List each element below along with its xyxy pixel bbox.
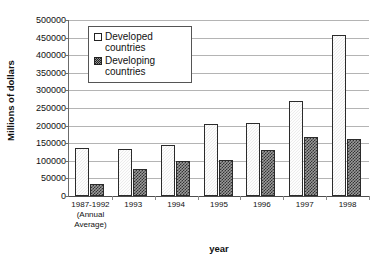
- legend-label-developing: Developing countries: [105, 55, 155, 77]
- x-tick-label: 1995: [198, 200, 241, 210]
- y-tick-mark: [65, 126, 69, 127]
- gridline: [69, 143, 369, 144]
- x-axis-tick-labels: 1987-1992(AnnualAverage)1993199419951996…: [69, 200, 369, 240]
- bar-developing-3: [219, 160, 233, 196]
- gridline: [69, 90, 369, 91]
- gridline: [69, 20, 369, 21]
- x-tick-label-line1: 1993: [112, 200, 155, 210]
- bar-developing-1: [133, 169, 147, 196]
- x-tick-label-line2: (Annual: [69, 210, 112, 220]
- legend-label-developed-line2: countries: [105, 42, 146, 53]
- x-tick-label-line3: Average): [69, 220, 112, 230]
- bar-developed-2: [161, 145, 175, 196]
- x-tick-label-line1: 1995: [198, 200, 241, 210]
- y-tick-label: 250000: [18, 103, 66, 113]
- bar-developed-1: [118, 149, 132, 196]
- y-tick-mark: [65, 196, 69, 197]
- x-axis-title: year: [69, 243, 369, 254]
- legend-label-developed: Developed countries: [105, 31, 153, 53]
- x-tick-label-line1: 1997: [283, 200, 326, 210]
- y-axis-title: Millions of dollars: [0, 0, 20, 200]
- y-tick-mark: [65, 178, 69, 179]
- x-tick-label: 1987-1992(AnnualAverage): [69, 200, 112, 230]
- y-tick-label: 500000: [18, 15, 66, 25]
- x-tick-label-line1: 1998: [326, 200, 369, 210]
- bar-developed-6: [332, 35, 346, 196]
- y-tick-mark: [65, 55, 69, 56]
- legend-label-developing-line2: countries: [105, 66, 146, 77]
- gridline: [69, 126, 369, 127]
- legend-swatch-developed-icon: [94, 33, 102, 41]
- gridline: [69, 196, 369, 197]
- x-tick-mark: [369, 196, 370, 200]
- legend-item-developed: Developed countries: [94, 31, 186, 53]
- y-tick-label: 100000: [18, 156, 66, 166]
- legend-label-developed-line1: Developed: [105, 31, 153, 42]
- y-tick-mark: [65, 90, 69, 91]
- y-tick-mark: [65, 73, 69, 74]
- gridline: [69, 108, 369, 109]
- y-axis-title-label: Millions of dollars: [5, 60, 16, 141]
- bar-developed-5: [289, 101, 303, 196]
- y-tick-label: 450000: [18, 33, 66, 43]
- x-tick-label: 1993: [112, 200, 155, 210]
- y-tick-mark: [65, 38, 69, 39]
- x-tick-label: 1994: [155, 200, 198, 210]
- bar-developed-3: [204, 124, 218, 196]
- y-tick-label: 400000: [18, 50, 66, 60]
- x-tick-label-line1: 1994: [155, 200, 198, 210]
- x-tick-label: 1998: [326, 200, 369, 210]
- x-tick-label: 1997: [283, 200, 326, 210]
- y-tick-mark: [65, 20, 69, 21]
- bar-developing-0: [90, 184, 104, 196]
- bar-chart: Millions of dollars 50000045000040000035…: [0, 0, 377, 264]
- legend-swatch-developing-icon: [94, 57, 102, 65]
- x-tick-label-line1: 1987-1992: [69, 200, 112, 210]
- legend-label-developing-line1: Developing: [105, 55, 155, 66]
- y-axis-tick-labels: 5000004500004000003500003000002500002000…: [18, 14, 66, 198]
- y-tick-mark: [65, 108, 69, 109]
- bar-developing-2: [176, 161, 190, 196]
- bar-developing-4: [261, 150, 275, 196]
- bar-developing-6: [347, 139, 361, 196]
- legend-item-developing: Developing countries: [94, 55, 186, 77]
- x-tick-label-line1: 1996: [240, 200, 283, 210]
- y-tick-mark: [65, 161, 69, 162]
- bar-developed-4: [246, 123, 260, 196]
- y-tick-label: 350000: [18, 68, 66, 78]
- y-tick-label: 50000: [18, 173, 66, 183]
- y-tick-mark: [65, 143, 69, 144]
- bar-developing-5: [304, 137, 318, 196]
- y-tick-label: 0: [18, 191, 66, 201]
- y-tick-label: 200000: [18, 121, 66, 131]
- chart-legend: Developed countries Developing countries: [88, 26, 192, 83]
- y-tick-label: 300000: [18, 85, 66, 95]
- y-tick-label: 150000: [18, 138, 66, 148]
- bar-developed-0: [75, 148, 89, 196]
- x-tick-label: 1996: [240, 200, 283, 210]
